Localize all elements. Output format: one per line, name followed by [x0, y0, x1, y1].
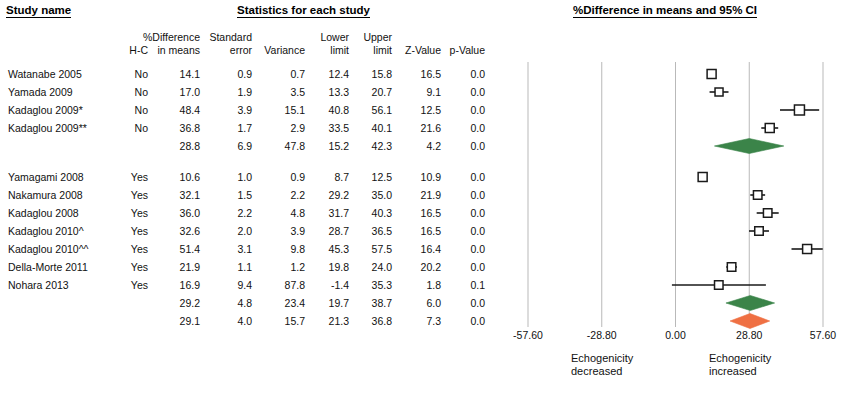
table-cell-p: 0.0 — [365, 225, 485, 237]
summary-effect-diamond — [714, 139, 783, 154]
study-effect-marker — [765, 124, 774, 133]
study-name-column-title: Study name — [6, 4, 71, 18]
table-cell-p: 0.0 — [365, 297, 485, 309]
study-effect-marker — [727, 263, 736, 272]
axis-caption-left-line1: Echogenicity — [571, 352, 633, 365]
table-cell-p: 0.0 — [365, 315, 485, 327]
table-cell-p: 0.0 — [365, 207, 485, 219]
study-effect-marker — [803, 245, 812, 254]
table-cell-p: 0.0 — [365, 189, 485, 201]
col-header-hc: H-C — [28, 44, 148, 56]
axis-caption-left-line2: decreased — [571, 365, 633, 378]
x-axis-tick-label: -57.60 — [513, 329, 543, 341]
study-effect-marker — [753, 191, 762, 200]
study-effect-marker — [755, 227, 764, 236]
summary-effect-diamond — [730, 314, 770, 329]
table-cell-p: 0.0 — [365, 261, 485, 273]
study-effect-marker — [715, 88, 723, 96]
table-cell-p: 0.0 — [365, 243, 485, 255]
x-axis-tick-label: 57.60 — [810, 329, 836, 341]
table-cell-p: 0.0 — [365, 122, 485, 134]
plot-section-title: %Difference in means and 95% CI — [573, 4, 757, 18]
forest-plot-figure: Study name Statistics for each study %Di… — [0, 0, 842, 393]
study-effect-marker — [707, 70, 716, 79]
axis-caption-right-line1: Echogenicity — [709, 352, 771, 365]
x-axis-tick-label: -28.80 — [587, 329, 617, 341]
study-effect-marker — [794, 105, 804, 115]
axis-caption-right-line2: increased — [709, 365, 771, 378]
col-header-upper-line1: Upper — [272, 31, 392, 43]
study-effect-marker — [763, 209, 772, 218]
table-cell-p: 0.0 — [365, 86, 485, 98]
study-effect-marker — [698, 173, 707, 182]
table-cell-p: 0.0 — [365, 104, 485, 116]
table-cell-p: 0.0 — [365, 140, 485, 152]
table-cell-p: 0.1 — [365, 279, 485, 291]
axis-caption-left: Echogenicity decreased — [571, 352, 633, 378]
col-header-pvalue: p-Value — [365, 44, 485, 56]
study-effect-marker — [715, 281, 724, 290]
statistics-section-title: Statistics for each study — [237, 4, 370, 18]
table-cell-p: 0.0 — [365, 68, 485, 80]
axis-caption-right: Echogenicity increased — [709, 352, 771, 378]
x-axis-tick-label: 0.00 — [665, 329, 685, 341]
x-axis-tick-label: 28.80 — [736, 329, 762, 341]
summary-effect-diamond — [726, 296, 775, 311]
table-cell-p: 0.0 — [365, 171, 485, 183]
